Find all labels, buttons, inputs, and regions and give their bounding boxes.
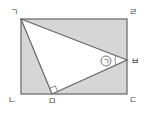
vertex-label-bieup: ㅂ (131, 56, 139, 66)
vertex-label-mieum: ㅁ (48, 96, 56, 106)
angle-marker-label: ㄱ (103, 58, 109, 66)
vertex-label-digeut: ㄷ (129, 95, 137, 105)
vertex-label-giyeok: ㄱ (10, 7, 18, 17)
vertex-label-rieul: ㄹ (129, 7, 137, 17)
vertex-label-nieun: ㄴ (8, 95, 16, 105)
geometry-diagram: ㄱ ㄱ ㄹ ㄴ ㅁ ㄷ ㅂ (0, 0, 150, 114)
